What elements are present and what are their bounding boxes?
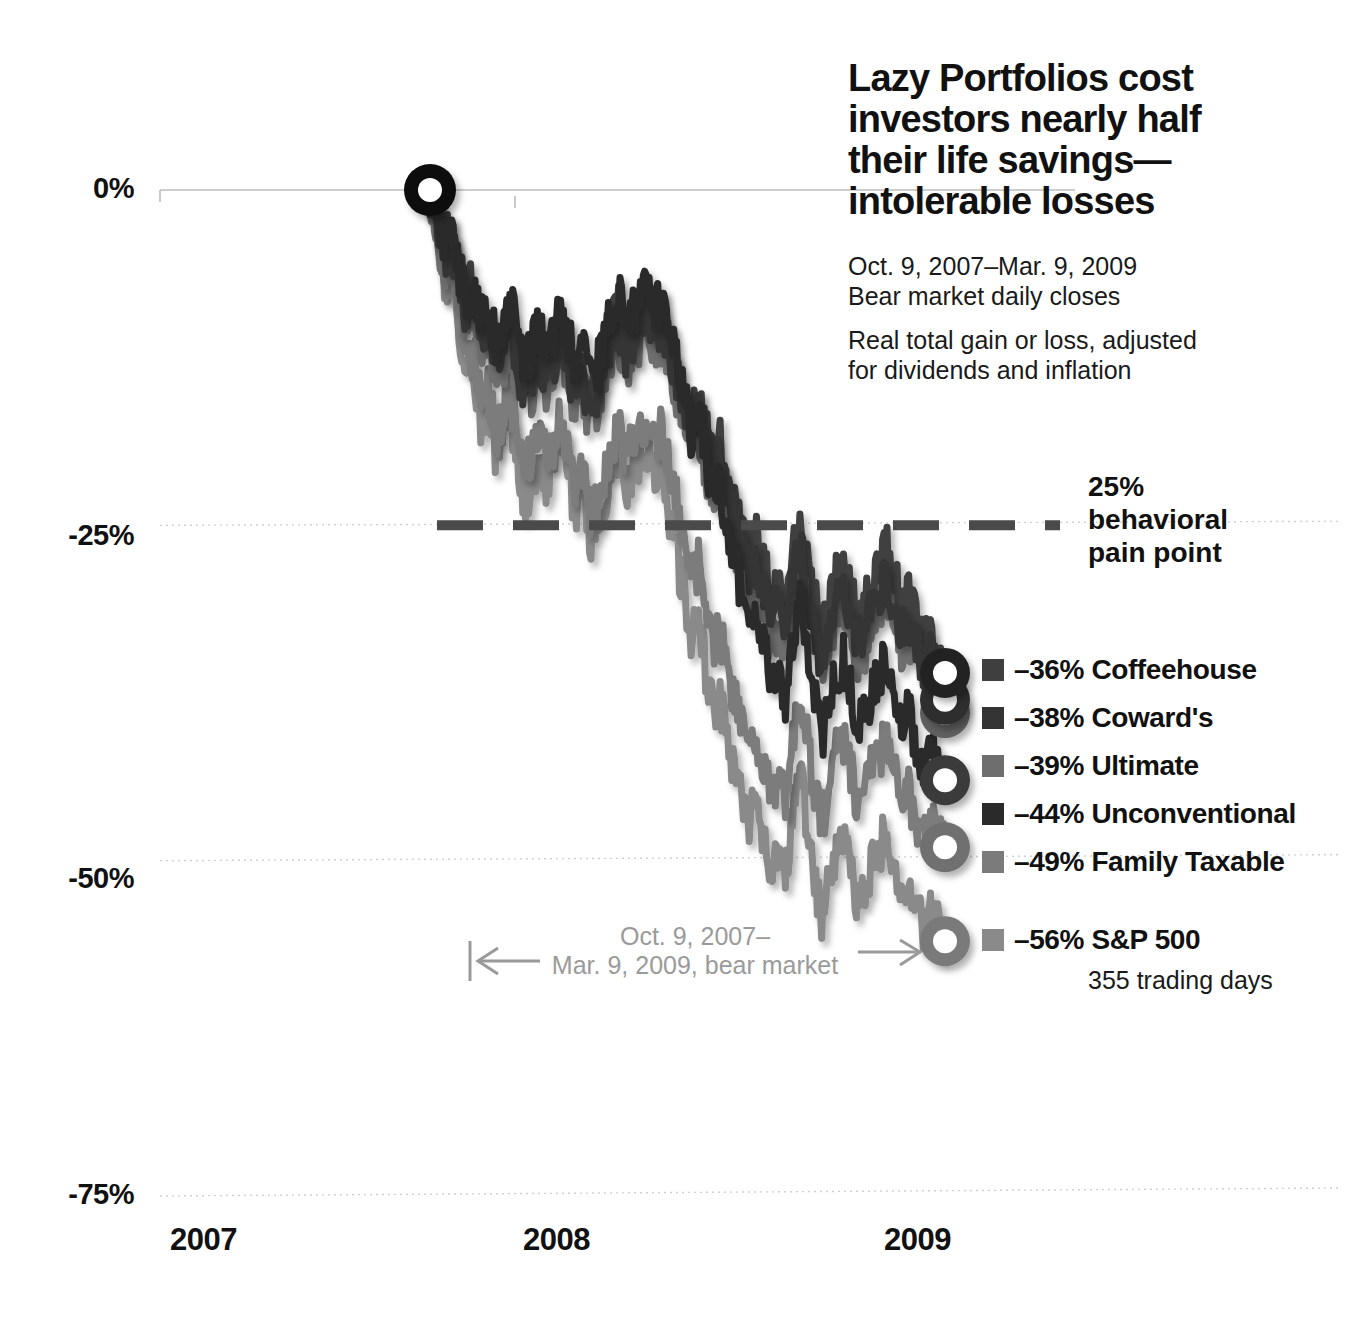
pain-point-annotation: 25% behavioral pain point bbox=[1088, 470, 1288, 569]
legend-label: –36% Coffeehouse bbox=[1014, 654, 1257, 686]
subtitle-basis: Bear market daily closes bbox=[848, 282, 1268, 312]
title-line-3: their life savings— bbox=[848, 140, 1268, 181]
y-axis-label-50: -50% bbox=[24, 862, 134, 895]
legend-swatch-icon bbox=[982, 755, 1004, 777]
chart-legend: –36% Coffeehouse–38% Coward's–39% Ultima… bbox=[982, 646, 1296, 886]
endpoint-coffeehouse bbox=[920, 648, 970, 698]
y-axis-label-25: -25% bbox=[24, 519, 134, 552]
legend-swatch-icon bbox=[982, 929, 1004, 951]
subtitle-note-line-2: for dividends and inflation bbox=[848, 355, 1268, 385]
legend-item-family-taxable[interactable]: –49% Family Taxable bbox=[982, 838, 1296, 886]
x-axis-label-2007: 2007 bbox=[170, 1222, 237, 1258]
legend-label: –56% S&P 500 bbox=[1014, 924, 1200, 956]
legend-item-coward-s[interactable]: –38% Coward's bbox=[982, 694, 1296, 742]
infographic-root: Lazy Portfolios cost investors nearly ha… bbox=[0, 0, 1360, 1338]
legend-item-ultimate[interactable]: –39% Ultimate bbox=[982, 742, 1296, 790]
legend-label: –38% Coward's bbox=[1014, 702, 1213, 734]
legend-item-unconventional[interactable]: –44% Unconventional bbox=[982, 790, 1296, 838]
subtitle-block: Oct. 9, 2007–Mar. 9, 2009 Bear market da… bbox=[848, 252, 1268, 385]
endpoint-sp-500 bbox=[920, 916, 970, 966]
endpoint-family-taxable bbox=[920, 822, 970, 872]
legend-item-sp-500[interactable]: –56% S&P 500 bbox=[982, 924, 1200, 956]
x-axis-label-2008: 2008 bbox=[523, 1222, 590, 1258]
title-line-2: investors nearly half bbox=[848, 99, 1268, 140]
legend-label: –39% Ultimate bbox=[1014, 750, 1199, 782]
bear-market-line-1: Oct. 9, 2007– bbox=[520, 922, 870, 951]
subtitle-date-range: Oct. 9, 2007–Mar. 9, 2009 bbox=[848, 252, 1268, 282]
pain-point-line-3: pain point bbox=[1088, 536, 1288, 569]
legend-swatch-icon bbox=[982, 707, 1004, 729]
title-line-4: intolerable losses bbox=[848, 181, 1268, 222]
legend-item-coffeehouse[interactable]: –36% Coffeehouse bbox=[982, 646, 1296, 694]
y-axis-label-0: 0% bbox=[24, 172, 134, 205]
bear-market-annotation: Oct. 9, 2007– Mar. 9, 2009, bear market bbox=[520, 922, 870, 980]
title-line-1: Lazy Portfolios cost bbox=[848, 58, 1268, 99]
pain-point-line-2: behavioral bbox=[1088, 503, 1288, 536]
bear-market-line-2: Mar. 9, 2009, bear market bbox=[520, 951, 870, 980]
chart-legend-sp500: –56% S&P 500 bbox=[982, 924, 1200, 956]
y-axis-label-75: -75% bbox=[24, 1178, 134, 1211]
subtitle-note-line-1: Real total gain or loss, adjusted bbox=[848, 325, 1268, 355]
subtitle-note: Real total gain or loss, adjusted for di… bbox=[848, 325, 1268, 385]
legend-label: –49% Family Taxable bbox=[1014, 846, 1284, 878]
start-marker bbox=[404, 164, 456, 216]
legend-label: –44% Unconventional bbox=[1014, 798, 1296, 830]
legend-swatch-icon bbox=[982, 803, 1004, 825]
x-axis-label-2009: 2009 bbox=[884, 1222, 951, 1258]
endpoint-unconventional bbox=[920, 755, 970, 805]
page-title: Lazy Portfolios cost investors nearly ha… bbox=[848, 58, 1268, 222]
pain-point-value: 25% bbox=[1088, 470, 1288, 503]
legend-swatch-icon bbox=[982, 659, 1004, 681]
legend-swatch-icon bbox=[982, 851, 1004, 873]
trading-days-note: 355 trading days bbox=[1088, 966, 1273, 995]
